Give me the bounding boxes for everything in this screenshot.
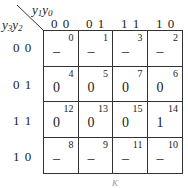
kmap-cell-4: 40 (44, 67, 79, 103)
cell-index: 7 (138, 69, 143, 79)
cell-index: 6 (173, 69, 178, 79)
map-caption: K (112, 178, 118, 188)
cell-index: 0 (69, 33, 74, 43)
cell-value: – (53, 152, 60, 166)
row-var-3: y3 (2, 17, 12, 32)
cell-index: 11 (133, 140, 143, 150)
col-var-1: y1 (32, 2, 42, 17)
cell-value: – (157, 152, 164, 166)
cell-index: 12 (64, 104, 74, 114)
kmap-cell-0: 0– (44, 31, 79, 67)
kmap-cell-1: 1– (79, 31, 114, 67)
row-header-10: 1 0 (13, 149, 32, 165)
cell-index: 1 (103, 33, 108, 43)
cell-index: 5 (103, 69, 108, 79)
kmap-cell-6: 60 (148, 67, 183, 103)
cell-value: 0 (53, 81, 60, 95)
cell-value: 0 (122, 116, 129, 130)
row-header-01: 0 1 (13, 77, 32, 93)
cell-value: – (53, 45, 60, 59)
cell-index: 13 (98, 104, 108, 114)
karnaugh-map-grid: 0– 1– 3– 2– 40 50 70 60 120 130 150 141 … (43, 30, 183, 174)
row-header-11: 1 1 (13, 113, 32, 129)
kmap-cell-12: 120 (44, 102, 79, 138)
kmap-cell-7: 70 (113, 67, 148, 103)
kmap-cell-9: 9– (79, 138, 114, 174)
kmap-cell-10: 10– (148, 138, 183, 174)
cell-value: – (88, 152, 95, 166)
kmap-cell-2: 2– (148, 31, 183, 67)
cell-index: 10 (168, 140, 178, 150)
cell-index: 8 (69, 140, 74, 150)
cell-value: 0 (157, 81, 164, 95)
col-var-0: y0 (42, 2, 52, 17)
cell-value: 0 (122, 81, 129, 95)
cell-value: – (122, 45, 129, 59)
kmap-cell-3: 3– (113, 31, 148, 67)
cell-index: 9 (103, 140, 108, 150)
kmap-cell-11: 11– (113, 138, 148, 174)
kmap-cell-5: 50 (79, 67, 114, 103)
cell-value: 1 (157, 116, 164, 130)
cell-value: – (88, 45, 95, 59)
row-header-00: 0 0 (13, 40, 32, 56)
row-variables-label: y3y2 (2, 18, 23, 35)
cell-index: 14 (168, 104, 178, 114)
cell-index: 3 (138, 33, 143, 43)
cell-value: – (157, 45, 164, 59)
kmap-cell-8: 8– (44, 138, 79, 174)
kmap-cell-13: 130 (79, 102, 114, 138)
cell-index: 2 (173, 33, 178, 43)
kmap-cell-15: 150 (113, 102, 148, 138)
cell-index: 15 (133, 104, 143, 114)
row-var-2: y2 (12, 17, 22, 32)
cell-value: 0 (88, 81, 95, 95)
cell-value: 0 (88, 116, 95, 130)
cell-index: 4 (69, 69, 74, 79)
cell-value: 0 (53, 116, 60, 130)
kmap-cell-14: 141 (148, 102, 183, 138)
cell-value: – (122, 152, 129, 166)
